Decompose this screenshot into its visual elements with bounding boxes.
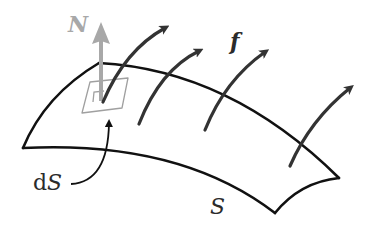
field-arrow-4: [290, 88, 350, 166]
area-element-label: dS: [33, 172, 62, 194]
flux-diagram: [0, 0, 373, 231]
area-element-pointer-arrow: [71, 123, 109, 184]
surface-right-edge: [275, 178, 339, 213]
surface-left-edge: [23, 63, 99, 148]
normal-vector-label: N: [68, 13, 88, 35]
field-label: f: [230, 30, 239, 52]
field-arrow-2: [139, 51, 199, 124]
surface-top-edge: [99, 63, 339, 178]
surface-label: S: [210, 196, 225, 218]
surface-S: [23, 63, 339, 213]
area-element-label-S: S: [47, 170, 62, 195]
area-element-label-d: d: [33, 170, 47, 195]
